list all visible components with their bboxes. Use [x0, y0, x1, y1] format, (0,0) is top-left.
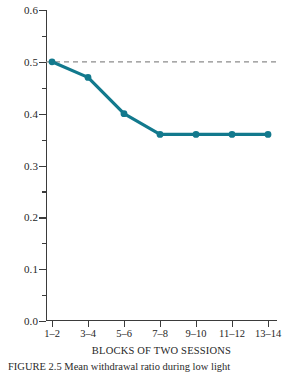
data-point	[157, 131, 164, 138]
y-tick-major	[39, 166, 46, 167]
x-tick-label: 11–12	[219, 329, 245, 340]
y-tick-label: 0.6	[24, 5, 38, 16]
y-tick-label: 0.0	[24, 316, 38, 327]
y-tick-major	[39, 269, 46, 270]
x-tick	[52, 321, 53, 327]
plot-area: 0.00.10.20.30.40.50.6 1–23–45–67–89–1011…	[46, 10, 277, 321]
x-tick-label: 9–10	[186, 329, 207, 340]
y-tick-major	[39, 62, 46, 63]
y-tick-major	[39, 321, 46, 322]
y-tick-label: 0.2	[24, 212, 38, 223]
x-tick	[160, 321, 161, 327]
figure-caption: FIGURE 2.5 Mean withdrawal ratio during …	[8, 361, 276, 372]
y-tick-label: 0.3	[24, 160, 38, 171]
figure-container: 0.00.10.20.30.40.50.6 1–23–45–67–89–1011…	[0, 0, 282, 372]
data-point	[229, 131, 236, 138]
data-point	[121, 110, 128, 117]
y-tick-label: 0.5	[24, 56, 38, 67]
x-tick	[88, 321, 89, 327]
x-tick-label: 5–6	[116, 329, 132, 340]
x-tick-label: 1–2	[44, 329, 60, 340]
y-tick-major	[39, 10, 46, 11]
data-point	[193, 131, 200, 138]
series-line	[52, 62, 268, 135]
y-tick-major	[39, 114, 46, 115]
y-tick-major	[39, 217, 46, 218]
x-axis-title: BLOCKS OF TWO SESSIONS	[46, 345, 277, 356]
y-tick-label: 0.1	[24, 264, 38, 275]
x-tick-label: 13–14	[255, 329, 281, 340]
x-tick	[232, 321, 233, 327]
data-point	[49, 58, 56, 65]
series-markers	[49, 58, 272, 137]
chart-data-layer	[46, 10, 277, 321]
y-tick-label: 0.4	[24, 108, 38, 119]
x-tick	[124, 321, 125, 327]
x-tick	[268, 321, 269, 327]
data-point	[85, 74, 92, 81]
x-tick-label: 7–8	[152, 329, 168, 340]
data-point	[265, 131, 272, 138]
x-tick-label: 3–4	[80, 329, 96, 340]
x-tick	[196, 321, 197, 327]
